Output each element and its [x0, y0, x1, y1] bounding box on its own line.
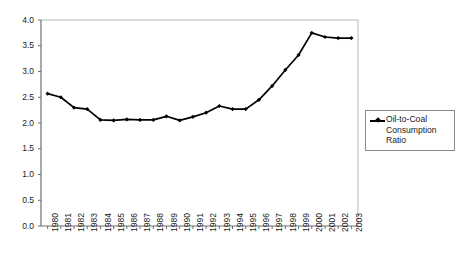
legend-label: Oil-to-Coal Consumption Ratio [386, 114, 450, 146]
x-tick-label: 1995 [249, 213, 258, 232]
x-tick-label: 1999 [302, 213, 311, 232]
chart-container: 4.03.53.02.52.01.51.00.50.0 198019811982… [0, 0, 463, 271]
x-tick-label: 1997 [275, 213, 284, 232]
x-tick-label: 1986 [130, 213, 139, 232]
chart-legend: Oil-to-Coal Consumption Ratio [365, 110, 455, 151]
x-tick-label: 1993 [223, 213, 232, 232]
x-tick-label: 1996 [262, 213, 271, 232]
x-tick-label: 1992 [209, 213, 218, 232]
x-tick-label: 1987 [143, 213, 152, 232]
x-tick-label: 1988 [156, 213, 165, 232]
x-tick-label: 1983 [90, 213, 99, 232]
x-tick-label: 1989 [170, 213, 179, 232]
x-tick-label: 1991 [196, 213, 205, 232]
x-tick-label: 1994 [236, 213, 245, 232]
x-tick-label: 1990 [183, 213, 192, 232]
x-tick-label: 1980 [51, 213, 60, 232]
legend-line-marker-icon [370, 116, 385, 125]
x-tick-label: 1985 [117, 213, 126, 232]
x-tick-label: 1981 [64, 213, 73, 232]
x-tick-label: 2003 [355, 213, 364, 232]
x-tick-label: 1984 [104, 213, 113, 232]
x-tick-label: 2001 [328, 213, 337, 232]
x-tick-label: 2000 [315, 213, 324, 232]
x-tick-label: 1982 [77, 213, 86, 232]
x-tick-label: 1998 [289, 213, 298, 232]
x-tick-label: 2002 [341, 213, 350, 232]
